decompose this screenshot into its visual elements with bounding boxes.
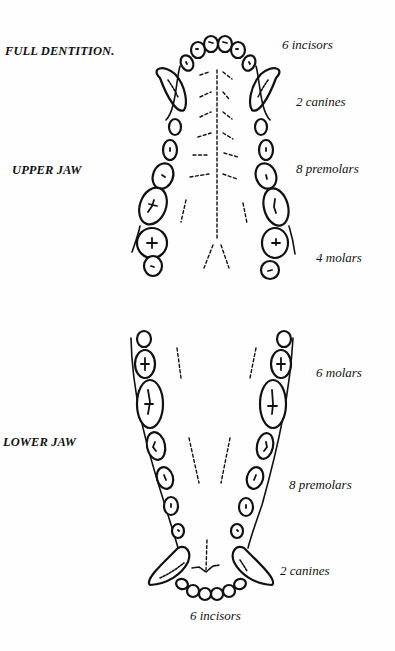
upper-canines — [157, 68, 280, 110]
upper-right-gumline — [289, 226, 295, 254]
upper-premolars — [149, 119, 280, 192]
upper-molars — [134, 184, 292, 279]
upper-jaw-drawing — [132, 36, 295, 279]
lower-jaw-markings — [177, 348, 256, 572]
lower-incisors — [175, 577, 248, 600]
upper-incisors — [178, 36, 258, 73]
palate-rugae — [181, 70, 247, 268]
lower-jaw-drawing — [131, 331, 293, 600]
lower-molars — [135, 331, 291, 428]
lower-canines — [149, 547, 273, 585]
